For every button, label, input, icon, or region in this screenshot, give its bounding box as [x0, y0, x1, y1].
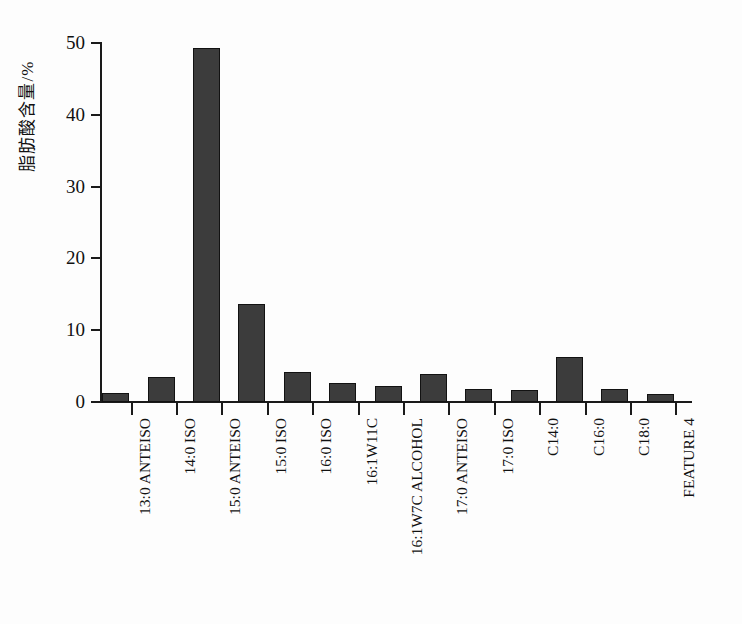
- x-tick: [221, 402, 223, 415]
- y-tick-20: 20: [91, 257, 100, 259]
- y-tick-0: 0: [91, 401, 100, 403]
- bar: [193, 48, 220, 402]
- bar: [329, 383, 356, 402]
- x-tick-label: 16:1W11C: [364, 418, 380, 485]
- x-tick: [267, 402, 269, 415]
- bar: [465, 389, 492, 402]
- x-tick: [131, 402, 133, 415]
- y-axis-line: [100, 42, 102, 403]
- y-tick-50: 50: [91, 42, 100, 44]
- x-tick: [403, 402, 405, 415]
- bar: [148, 377, 175, 402]
- x-tick-label: 14:0 ISO: [182, 418, 198, 474]
- x-tick-label: C16:0: [591, 418, 607, 456]
- x-tick-label: 13:0 ANTEISO: [137, 418, 153, 515]
- x-tick: [312, 402, 314, 415]
- x-axis-category-labels: 13:0 ANTEISO14:0 ISO15:0 ANTEISO15:0 ISO…: [100, 418, 700, 618]
- y-tick-label: 0: [76, 391, 86, 413]
- bar: [647, 394, 674, 402]
- x-tick-label: C18:0: [636, 418, 652, 456]
- x-tick: [176, 402, 178, 415]
- fatty-acid-bar-chart-figure: 脂肪酸含量/% 01020304050 13:0 ANTEISO14:0 ISO…: [0, 0, 742, 624]
- bar: [511, 390, 538, 402]
- y-tick-40: 40: [91, 114, 100, 116]
- y-tick-label: 20: [66, 247, 85, 269]
- y-tick-label: 50: [66, 32, 85, 54]
- x-tick-label: 15:0 ANTEISO: [227, 418, 243, 515]
- y-tick-10: 10: [91, 329, 100, 331]
- y-axis-title: 脂肪酸含量/%: [19, 146, 36, 172]
- y-tick-30: 30: [91, 186, 100, 188]
- x-tick: [585, 402, 587, 415]
- x-tick-label: 17:0 ISO: [500, 418, 516, 474]
- plot-area: 01020304050: [100, 43, 690, 402]
- x-tick: [448, 402, 450, 415]
- x-tick: [675, 402, 677, 415]
- x-tick: [539, 402, 541, 415]
- bar: [284, 372, 311, 402]
- x-tick-label: 16:0 ISO: [318, 418, 334, 474]
- bar: [601, 389, 628, 402]
- bar: [102, 393, 129, 402]
- x-tick-label: 17:0 ANTEISO: [454, 418, 470, 515]
- y-tick-label: 30: [66, 176, 85, 198]
- y-tick-label: 40: [66, 104, 85, 126]
- x-tick-label: 15:0 ISO: [273, 418, 289, 474]
- y-tick-label: 10: [66, 319, 85, 341]
- x-tick: [494, 402, 496, 415]
- x-tick: [630, 402, 632, 415]
- x-tick-label: 16:1W7C ALCOHOL: [409, 418, 425, 555]
- bar: [375, 386, 402, 402]
- bar: [238, 304, 265, 402]
- bar: [420, 374, 447, 402]
- bar: [556, 357, 583, 402]
- x-tick-label: FEATURE 4: [681, 418, 697, 498]
- x-tick: [358, 402, 360, 415]
- x-tick-label: C14:0: [545, 418, 561, 456]
